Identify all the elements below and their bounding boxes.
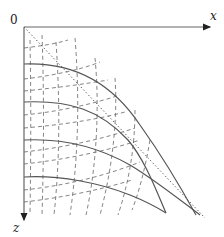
- dashed-curves: [24, 35, 150, 215]
- x-axis-label: x: [210, 10, 217, 22]
- diagram-figure: 0 x z: [0, 0, 224, 237]
- solid-curves: [24, 64, 200, 215]
- z-axis-label: z: [13, 222, 19, 234]
- wavefront-4: [24, 177, 166, 213]
- origin-label: 0: [10, 14, 18, 26]
